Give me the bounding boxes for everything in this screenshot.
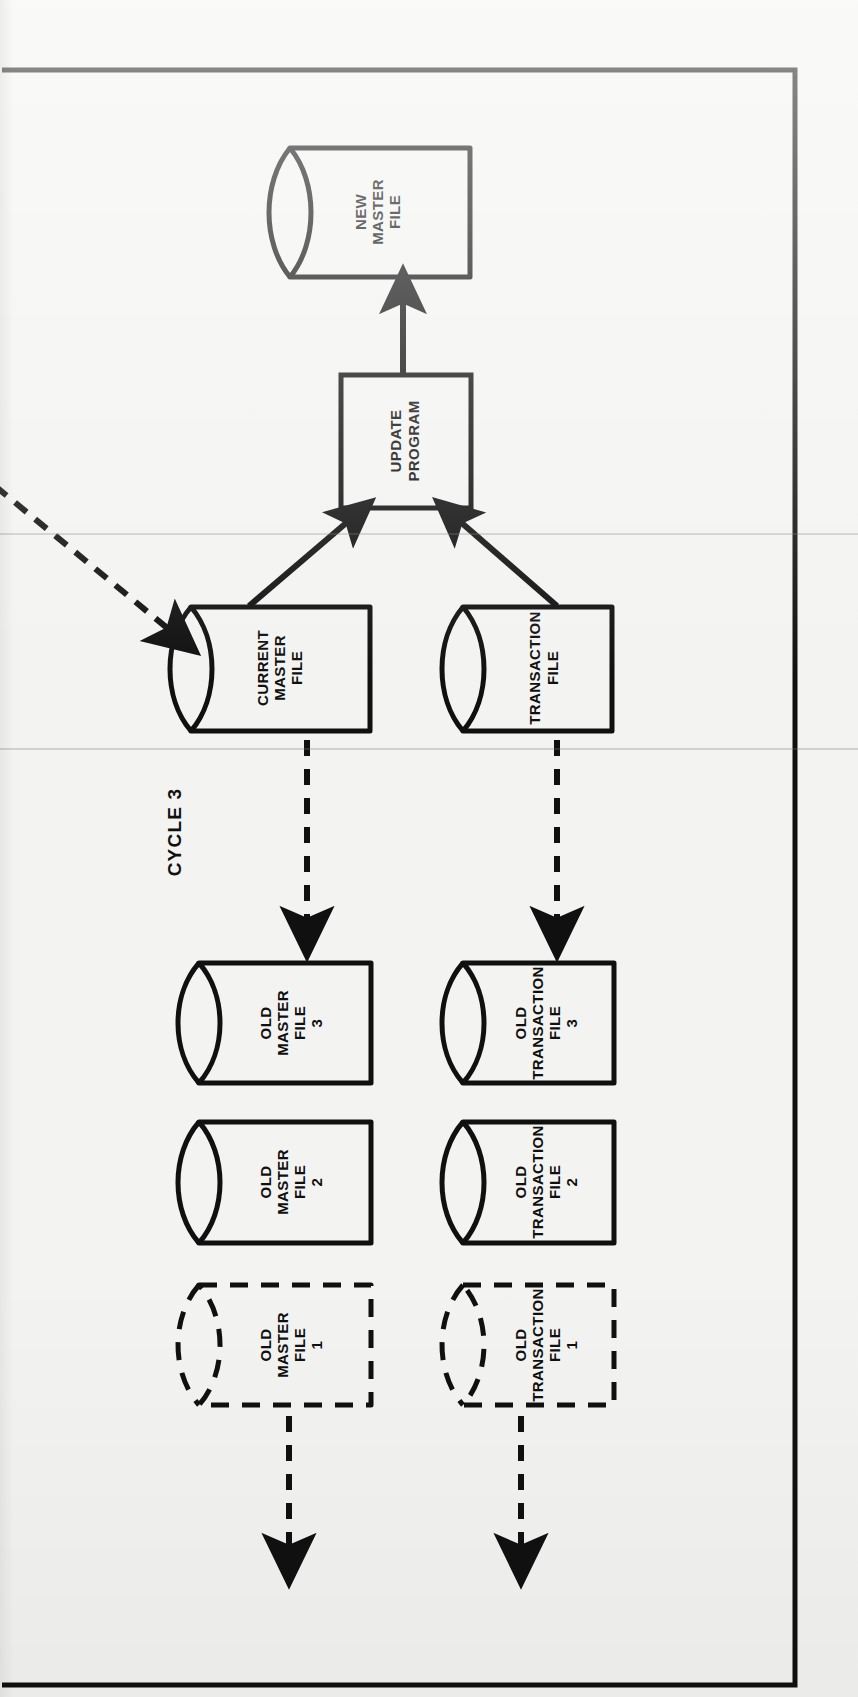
node-label-line: FILE (291, 1328, 308, 1362)
diagram-canvas: CYCLE 3 NEW MASTER FILE UPDATE PROGRAM C… (0, 0, 858, 1697)
node-label-line: TRANSACTION (529, 1288, 546, 1402)
cylinder-left-arc (442, 963, 463, 1083)
node-label-line: FILE (546, 1328, 563, 1362)
node-label-line: FILE (386, 195, 403, 229)
cylinder-left-arc (178, 1285, 199, 1405)
node-current-master-file[interactable]: CURRENT MASTER FILE (170, 607, 370, 731)
node-label-line: NEW (352, 193, 369, 230)
node-label-line: OLD (257, 1329, 274, 1362)
node-label-line: 3 (308, 1019, 325, 1028)
node-old-master-file-1[interactable]: OLD MASTER FILE 1 (178, 1285, 371, 1405)
cylinder-left-arc (178, 963, 199, 1083)
scanned-page: CYCLE 3 NEW MASTER FILE UPDATE PROGRAM C… (0, 0, 858, 1697)
node-label-line: UPDATE (387, 410, 404, 473)
page-border (2, 70, 795, 1685)
node-label-line: CURRENT (254, 630, 271, 706)
node-old-transaction-file-1[interactable]: OLD TRANSACTION FILE 1 (442, 1285, 614, 1405)
node-label-line: 2 (563, 1178, 580, 1187)
cylinder-left-arc (442, 1122, 463, 1243)
node-label-line: PROGRAM (405, 400, 422, 481)
node-new-master-file[interactable]: NEW MASTER FILE (269, 148, 470, 277)
edge-current-master-to-update (249, 518, 352, 606)
node-label-line: OLD (512, 1007, 529, 1040)
node-label-line: FILE (546, 1165, 563, 1199)
cylinder-left-arc (170, 607, 191, 731)
node-label-line: TRANSACTION (526, 611, 543, 725)
node-label-line: MASTER (274, 1149, 291, 1215)
cylinder-left-arc (269, 148, 290, 277)
node-old-transaction-file-2[interactable]: OLD TRANSACTION FILE 2 (442, 1122, 614, 1243)
edge-incoming-to-current-master (0, 486, 172, 632)
cylinder-left-arc (442, 1285, 463, 1405)
node-label-line: FILE (544, 651, 561, 685)
node-label-line: 1 (563, 1341, 580, 1350)
node-label-line: 2 (308, 1178, 325, 1187)
cycle-label: CYCLE 3 (164, 788, 185, 877)
cylinder-left-arc (442, 607, 463, 731)
node-update-program[interactable]: UPDATE PROGRAM (341, 375, 471, 508)
node-label-line: FILE (291, 1165, 308, 1199)
node-old-transaction-file-3[interactable]: OLD TRANSACTION FILE 3 (442, 963, 614, 1083)
node-old-master-file-2[interactable]: OLD MASTER FILE 2 (178, 1122, 371, 1243)
node-label-line: FILE (546, 1006, 563, 1040)
node-label-line: MASTER (271, 635, 288, 701)
edge-transaction-to-update (456, 518, 557, 606)
node-label-line: FILE (291, 1006, 308, 1040)
node-label-line: 3 (563, 1019, 580, 1028)
node-transaction-file[interactable]: TRANSACTION FILE (442, 607, 612, 731)
node-label-line: OLD (257, 1007, 274, 1040)
node-label-line: MASTER (274, 1312, 291, 1378)
cylinder-left-arc (178, 1122, 199, 1243)
node-label-line: MASTER (274, 990, 291, 1056)
node-label-line: MASTER (369, 179, 386, 245)
node-label-line: OLD (512, 1166, 529, 1199)
node-label-line: 1 (308, 1341, 325, 1350)
node-label-line: OLD (512, 1329, 529, 1362)
node-old-master-file-3[interactable]: OLD MASTER FILE 3 (178, 963, 371, 1083)
node-label-line: TRANSACTION (529, 966, 546, 1080)
node-label-line: TRANSACTION (529, 1125, 546, 1239)
node-label-line: OLD (257, 1166, 274, 1199)
page-title: CYCLE 3 (164, 788, 185, 877)
node-label-line: FILE (288, 651, 305, 685)
